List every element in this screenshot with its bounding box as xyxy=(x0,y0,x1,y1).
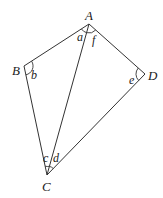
edge-cd xyxy=(47,74,145,175)
angle-label-e: e xyxy=(129,73,135,87)
angle-arc-d xyxy=(49,166,53,168)
vertex-label-c: C xyxy=(42,179,51,194)
edge-da xyxy=(89,24,145,74)
angle-label-c: c xyxy=(43,151,49,165)
angle-label-a: a xyxy=(77,30,83,44)
angle-label-b: b xyxy=(31,68,37,82)
angle-label-f: f xyxy=(92,33,97,47)
vertex-label-a: A xyxy=(84,8,93,23)
angle-label-d: d xyxy=(53,151,60,165)
vertex-label-b: B xyxy=(12,63,20,78)
angle-arc-e xyxy=(136,68,139,81)
vertex-label-d: D xyxy=(147,68,158,83)
quadrilateral-diagram: A B C D a f b c d e xyxy=(0,0,163,198)
